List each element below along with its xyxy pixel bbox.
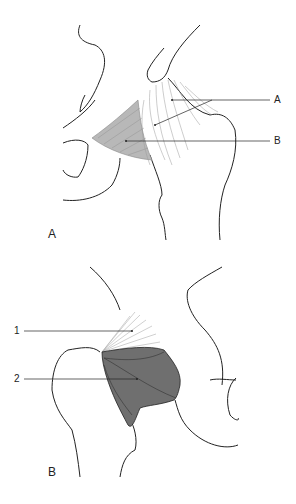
callout-label-a: A bbox=[274, 95, 281, 105]
ligament-a-fibers bbox=[142, 80, 218, 165]
panel-label-b: B bbox=[48, 466, 56, 478]
callout-label-b: B bbox=[274, 136, 281, 146]
diagram-canvas bbox=[0, 0, 296, 504]
callout-label-1: 1 bbox=[14, 326, 20, 336]
panel-a-drawing bbox=[63, 25, 236, 240]
panel-a-leaders bbox=[126, 100, 270, 141]
ligament-1-fibers bbox=[102, 312, 160, 352]
panel-label-a: A bbox=[48, 228, 56, 240]
callout-label-2: 2 bbox=[14, 374, 20, 384]
